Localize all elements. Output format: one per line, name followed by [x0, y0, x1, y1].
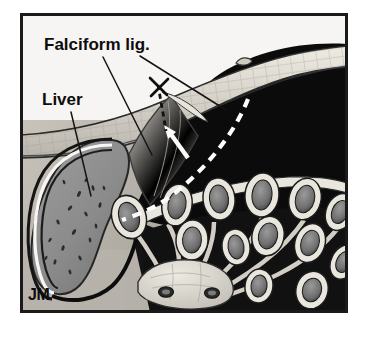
anatomical-illustration: Falciform lig. Liver JM [0, 0, 368, 338]
artist-signature: JM [28, 286, 49, 303]
illustration-frame: Falciform lig. Liver JM [21, 14, 368, 314]
label-liver: Liver [42, 90, 83, 109]
figure-root: Falciform lig. Liver JM [0, 0, 368, 338]
label-falciform-ligament: Falciform lig. [44, 35, 150, 54]
